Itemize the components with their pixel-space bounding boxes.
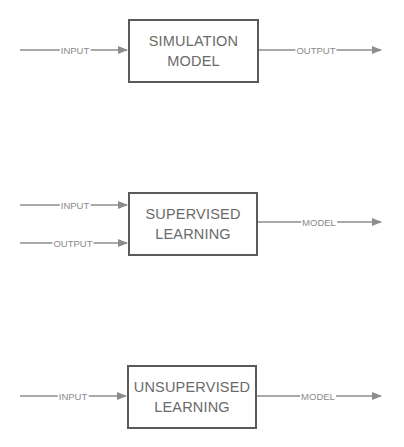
box-title-line1: SIMULATION	[149, 31, 239, 51]
box-title-line1: SUPERVISED	[145, 204, 240, 224]
simulation-input-label: INPUT	[60, 45, 91, 56]
unsupervised-model-label: MODEL	[300, 391, 336, 402]
box-title-line2: MODEL	[167, 51, 220, 71]
box-title-line2: LEARNING	[155, 224, 231, 244]
supervised-output-label: OUTPUT	[52, 238, 93, 249]
supervised-model-label: MODEL	[301, 217, 337, 228]
box-title-line2: LEARNING	[154, 397, 230, 417]
unsupervised-input-label: INPUT	[58, 391, 89, 402]
simulation-model-box: SIMULATION MODEL	[128, 19, 259, 83]
supervised-input-label: INPUT	[60, 200, 91, 211]
supervised-learning-box: SUPERVISED LEARNING	[128, 192, 258, 256]
box-title-line1: UNSUPERVISED	[134, 377, 251, 397]
unsupervised-learning-box: UNSUPERVISED LEARNING	[127, 365, 257, 429]
simulation-output-label: OUTPUT	[295, 45, 336, 56]
